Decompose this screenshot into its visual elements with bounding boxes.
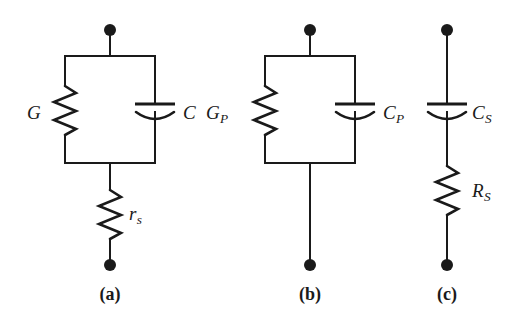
caption-c: (c) xyxy=(422,285,472,303)
label-cs: CS xyxy=(472,103,492,125)
circuit-c xyxy=(427,24,467,271)
label-gp: GP xyxy=(206,103,228,125)
terminal-dot-bottom-a xyxy=(104,259,116,271)
label-c: C xyxy=(183,103,196,122)
label-cs-sub: S xyxy=(485,111,492,126)
label-cp-sub: P xyxy=(396,111,404,126)
resistor-symbol-rs xyxy=(99,190,121,239)
label-gp-main: G xyxy=(206,102,220,123)
label-rs-c-main: R xyxy=(472,180,484,201)
resistor-symbol-rs-c xyxy=(436,166,458,215)
label-g: G xyxy=(27,103,41,122)
circuit-b xyxy=(254,24,375,271)
label-cp-main: C xyxy=(383,102,396,123)
label-gp-sub: P xyxy=(220,111,228,126)
label-rs-sub: s xyxy=(136,212,141,227)
label-c-main: C xyxy=(183,102,196,123)
caption-a: (a) xyxy=(85,285,135,303)
label-rs-c-sub: S xyxy=(484,189,491,204)
label-g-main: G xyxy=(27,102,41,123)
terminal-dot-bottom-b xyxy=(304,259,316,271)
label-cp: CP xyxy=(383,103,404,125)
label-rs: rs xyxy=(129,204,142,226)
resistor-symbol-gp xyxy=(254,86,276,135)
figure-canvas: G C rs GP CP CS RS (a) (b) (c) xyxy=(0,0,517,318)
resistor-symbol-g xyxy=(54,86,76,135)
circuit-a xyxy=(54,24,175,271)
label-cs-main: C xyxy=(472,102,485,123)
circuit-diagram-svg xyxy=(0,0,517,318)
caption-b: (b) xyxy=(285,285,335,303)
terminal-dot-bottom-c xyxy=(441,259,453,271)
label-rs-c: RS xyxy=(472,181,491,203)
